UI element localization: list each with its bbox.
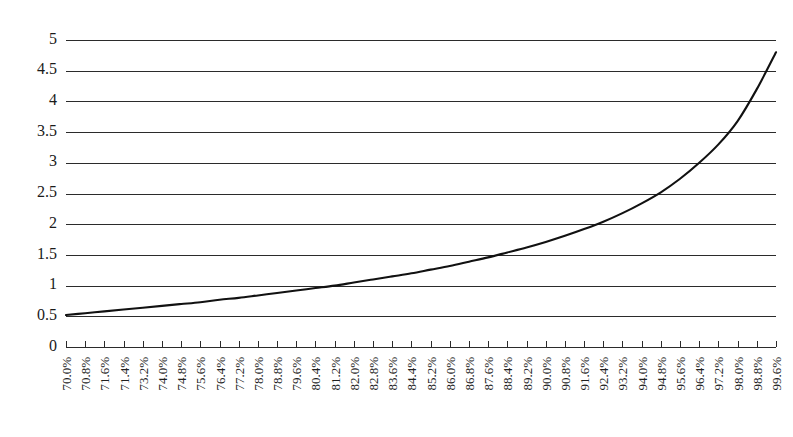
x-axis-tick-label: 79.6% xyxy=(289,357,304,391)
x-axis-tick-label: 98.0% xyxy=(731,357,746,391)
y-axis-labels: 00.511.522.533.544.55 xyxy=(37,30,57,354)
y-axis-tick-label: 4 xyxy=(49,91,57,108)
x-axis-tick-label: 70.0% xyxy=(59,357,74,391)
x-axis-tick-label: 74.0% xyxy=(155,357,170,391)
x-axis-tick-label: 96.4% xyxy=(692,357,707,391)
x-axis-tick-label: 92.4% xyxy=(596,357,611,391)
x-axis-tick-label: 90.0% xyxy=(539,357,554,391)
y-gridlines xyxy=(66,41,776,348)
x-axis-tick-label: 86.8% xyxy=(462,357,477,391)
y-axis-tick-label: 5 xyxy=(49,30,57,47)
y-axis-tick-label: 0 xyxy=(49,337,57,354)
x-axis-tick-label: 88.4% xyxy=(500,357,515,391)
x-axis-tick-label: 77.2% xyxy=(232,357,247,391)
x-axis-tick-label: 76.4% xyxy=(213,357,228,391)
x-axis-tick-label: 98.8% xyxy=(750,357,765,391)
data-series-group xyxy=(66,52,776,315)
x-axis-tick-label: 78.0% xyxy=(251,357,266,391)
x-axis-tick-label: 90.8% xyxy=(558,357,573,391)
x-axis-tick-label: 89.2% xyxy=(520,357,535,391)
x-axis-tick-label: 73.2% xyxy=(136,357,151,391)
chart-container: 00.511.522.533.544.5570.0%70.8%71.6%71.4… xyxy=(0,0,793,437)
x-axis-tick-label: 85.2% xyxy=(424,357,439,391)
x-axis-tick-label: 97.2% xyxy=(711,357,726,391)
data-series-line xyxy=(66,52,776,315)
x-axis-tick-label: 74.8% xyxy=(174,357,189,391)
x-axis-tick-label: 71.6% xyxy=(97,357,112,391)
x-axis-tick-label: 84.4% xyxy=(404,357,419,391)
y-axis-tick-label: 1.5 xyxy=(37,245,57,262)
x-axis-tick-label: 71.4% xyxy=(117,357,132,391)
y-axis-tick-label: 1 xyxy=(49,275,57,292)
y-axis-tick-label: 2 xyxy=(49,214,57,231)
y-axis-tick-label: 2.5 xyxy=(37,183,57,200)
x-axis-tick-label: 83.6% xyxy=(385,357,400,391)
x-axis-tick-label: 94.0% xyxy=(635,357,650,391)
x-axis-tick-label: 80.4% xyxy=(308,357,323,391)
x-axis-tick-label: 78.8% xyxy=(270,357,285,391)
x-axis-tick-label: 86.0% xyxy=(443,357,458,391)
x-axis-tick-label: 93.2% xyxy=(615,357,630,391)
x-axis-tick-label: 75.6% xyxy=(193,357,208,391)
x-axis-tick-label: 91.6% xyxy=(577,357,592,391)
y-axis-tick-label: 4.5 xyxy=(37,60,57,77)
line-chart: 00.511.522.533.544.5570.0%70.8%71.6%71.4… xyxy=(0,0,793,437)
x-axis-labels: 70.0%70.8%71.6%71.4%73.2%74.0%74.8%75.6%… xyxy=(59,357,784,391)
x-axis-tick-label: 82.8% xyxy=(366,357,381,391)
x-axis-tick-label: 94.8% xyxy=(654,357,669,391)
y-axis-tick-label: 0.5 xyxy=(37,306,57,323)
y-axis-tick-label: 3.5 xyxy=(37,122,57,139)
x-axis-tick-label: 99.6% xyxy=(769,357,784,391)
x-axis-tick-label: 87.6% xyxy=(481,357,496,391)
x-axis-tick-label: 82.0% xyxy=(347,357,362,391)
x-axis-tickmarks xyxy=(67,341,777,347)
x-axis-tick-label: 95.6% xyxy=(673,357,688,391)
x-axis-tick-label: 81.2% xyxy=(328,357,343,391)
y-axis-tick-label: 3 xyxy=(49,152,57,169)
x-axis-tick-label: 70.8% xyxy=(78,357,93,391)
